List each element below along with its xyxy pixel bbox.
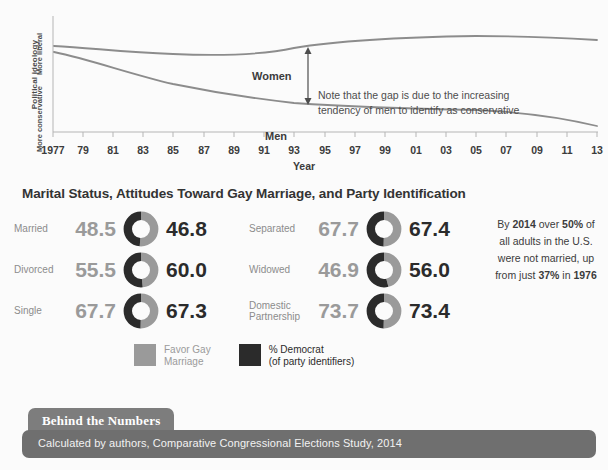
x-axis-tick-13: 13 [591,144,603,156]
percent-democrat-value: 60.0 [166,259,218,280]
favor-gay-marriage-value: 46.9 [311,259,359,280]
x-axis-tick-85: 85 [167,144,179,156]
x-axis-tick-09: 09 [531,144,543,156]
donut-chart-icon [365,210,403,248]
percent-democrat-value: 56.0 [409,259,461,280]
donut-row: Married48.546.8 [14,208,218,249]
series-label-women: Women [252,70,292,82]
x-axis-tick-03: 03 [440,144,452,156]
legend-swatch [239,344,261,366]
donut-chart-icon [122,251,160,289]
x-axis-tick-91: 91 [258,144,270,156]
percent-democrat-value: 67.4 [409,218,461,239]
side-note-highlight: 37% [538,269,559,281]
political-ideology-line-chart: Political ideology More liberal More con… [0,8,608,168]
x-axis-tick-07: 07 [500,144,512,156]
side-note-callout: By 2014 over 50% of all adults in the U.… [494,216,598,284]
donut-row-label: Domestic Partnership [249,300,311,322]
x-axis-tick-97: 97 [349,144,361,156]
x-axis-tick-95: 95 [319,144,331,156]
legend-swatch [134,344,156,366]
legend-label: Favor GayMarriage [164,344,211,368]
y-axis-endpoint-labels: More liberal More conservative [36,18,50,138]
donut-row: Widowed46.956.0 [249,249,461,290]
donut-row: Domestic Partnership73.773.4 [249,290,461,331]
x-axis-tick-93: 93 [288,144,300,156]
donut-row-label: Separated [249,223,311,234]
donut-chart-icon [365,251,403,289]
legend-label: % Democrat(of party identifiers) [269,344,355,368]
donut-row-label: Widowed [249,264,311,275]
side-note-text: in [559,269,573,281]
side-note-highlight: 1976 [573,269,596,281]
x-axis-tick-83: 83 [137,144,149,156]
x-axis-tick-11: 11 [561,144,572,156]
legend: Favor GayMarriage% Democrat(of party ide… [134,344,382,368]
donut-row-label: Divorced [14,264,68,275]
x-axis-title: Year [0,160,608,172]
favor-gay-marriage-value: 55.5 [68,259,116,280]
x-axis-tick-labels: 1977798183858789919395979901030507091113 [52,144,600,160]
x-axis-tick-87: 87 [198,144,210,156]
donut-grid: Married48.546.8Divorced55.560.0Single67.… [14,208,484,333]
percent-democrat-value: 73.4 [409,300,461,321]
side-note-text: By [497,218,512,230]
legend-item: Favor GayMarriage [134,344,211,368]
y-axis-top-label: More liberal [35,33,44,75]
chart-annotation-line-1: Note that the gap is due to the increasi… [318,89,509,101]
favor-gay-marriage-value: 48.5 [68,218,116,239]
x-axis-tick-79: 79 [77,144,89,156]
donut-row-label: Married [14,223,68,234]
series-label-men: Men [265,130,287,142]
donut-chart-icon [365,292,403,330]
x-axis-tick-89: 89 [228,144,240,156]
donut-chart-icon [122,292,160,330]
source-bar: Calculated by authors, Comparative Congr… [22,430,596,458]
favor-gay-marriage-value: 67.7 [311,218,359,239]
x-axis-tick-05: 05 [470,144,482,156]
chart-svg [52,14,598,138]
x-axis-tick-1977: 1977 [41,144,64,156]
favor-gay-marriage-value: 67.7 [68,300,116,321]
women-series-line [54,36,597,55]
percent-democrat-value: 46.8 [166,218,218,239]
chart-plot-area [52,14,598,138]
donut-row: Divorced55.560.0 [14,249,218,290]
side-note-text: over [536,218,562,230]
x-axis-tick-99: 99 [379,144,391,156]
donut-row: Single67.767.3 [14,290,218,331]
y-axis-title-wrap: Political ideology [22,18,36,138]
gap-double-arrow-icon [305,47,312,105]
side-note-highlight: 50% [562,218,583,230]
donut-section-title: Marital Status, Attitudes Toward Gay Mar… [22,186,466,201]
percent-democrat-value: 67.3 [166,300,218,321]
x-axis-tick-marks [53,132,597,137]
x-axis-tick-01: 01 [410,144,422,156]
donut-chart-icon [122,210,160,248]
y-axis-bottom-label: More conservative [35,86,44,152]
donut-row: Separated67.767.4 [249,208,461,249]
legend-item: % Democrat(of party identifiers) [239,344,355,368]
source-text: Calculated by authors, Comparative Congr… [38,437,402,449]
x-axis-tick-81: 81 [107,144,119,156]
donut-row-label: Single [14,305,68,316]
side-note-highlight: 2014 [512,218,535,230]
chart-annotation-line-2: tendency of men to identify as conservat… [318,104,519,116]
favor-gay-marriage-value: 73.7 [311,300,359,321]
